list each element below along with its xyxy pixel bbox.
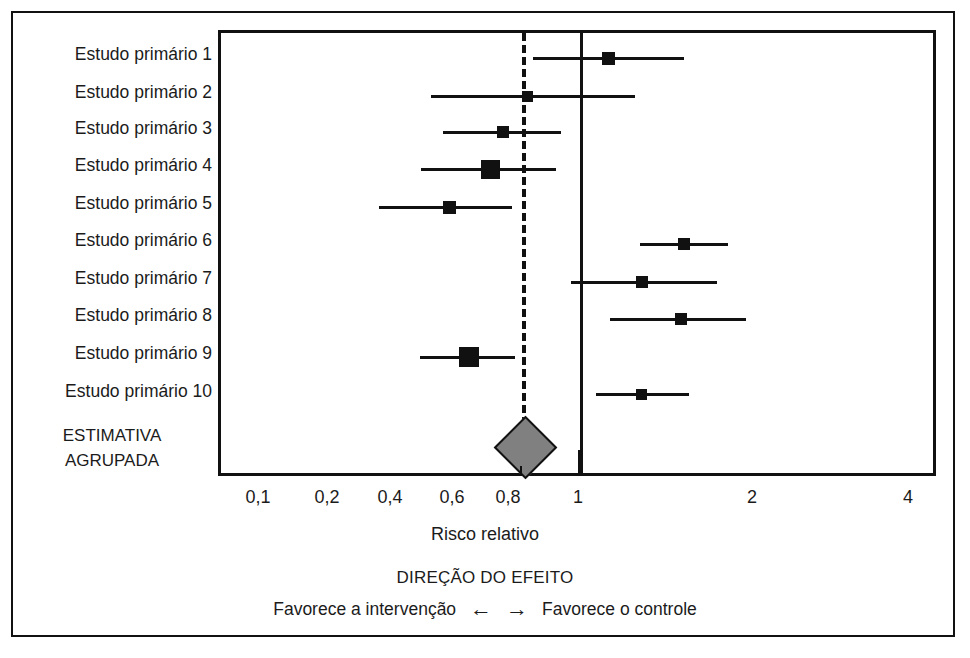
axis-tick-1 bbox=[578, 450, 581, 476]
marker-study-4 bbox=[481, 160, 500, 179]
axis-tick-0-8 bbox=[520, 466, 522, 476]
ci-line-study-2 bbox=[431, 95, 635, 98]
row-label-study-5: Estudo primário 5 bbox=[75, 195, 212, 213]
right-arrow-icon: → bbox=[506, 598, 528, 620]
marker-study-7 bbox=[636, 276, 648, 288]
marker-study-1 bbox=[602, 52, 615, 65]
null-effect-reference-line bbox=[580, 33, 583, 473]
row-label-study-7: Estudo primário 7 bbox=[75, 270, 212, 288]
marker-study-5 bbox=[443, 201, 456, 214]
marker-study-2 bbox=[522, 91, 533, 102]
marker-study-6 bbox=[678, 238, 690, 250]
row-label-study-6: Estudo primário 6 bbox=[75, 232, 212, 250]
tick-label-0-4: 0,4 bbox=[377, 488, 402, 506]
forest-plot-figure: Estudo primário 1 Estudo primário 2 Estu… bbox=[0, 0, 970, 658]
tick-label-0-6: 0,6 bbox=[439, 488, 464, 506]
effect-direction-title: DIREÇÃO DO EFEITO bbox=[0, 568, 970, 588]
marker-study-9 bbox=[459, 347, 479, 367]
plot-area bbox=[218, 30, 936, 476]
row-label-study-10: Estudo primário 10 bbox=[65, 383, 212, 401]
tick-label-0-8: 0,8 bbox=[495, 488, 520, 506]
x-axis-title: Risco relativo bbox=[0, 524, 970, 545]
marker-study-10 bbox=[636, 389, 647, 400]
marker-study-3 bbox=[497, 126, 509, 138]
tick-label-4: 4 bbox=[903, 488, 913, 506]
row-label-study-2: Estudo primário 2 bbox=[75, 84, 212, 102]
favors-intervention-label: Favorece a intervenção bbox=[273, 599, 456, 620]
pooled-estimate-diamond bbox=[494, 416, 558, 480]
tick-label-0-1: 0,1 bbox=[245, 488, 270, 506]
plot-inner bbox=[221, 33, 933, 473]
row-label-study-4: Estudo primário 4 bbox=[75, 157, 212, 175]
row-label-study-8: Estudo primário 8 bbox=[75, 307, 212, 325]
favors-control-label: Favorece o controle bbox=[542, 599, 697, 620]
row-label-study-1: Estudo primário 1 bbox=[75, 46, 212, 64]
tick-label-2: 2 bbox=[747, 488, 757, 506]
row-label-pooled-estimate-line2: AGRUPADA bbox=[12, 449, 212, 474]
tick-label-0-2: 0,2 bbox=[314, 488, 339, 506]
left-arrow-icon: ← bbox=[470, 598, 492, 620]
marker-study-8 bbox=[675, 313, 687, 325]
tick-label-1: 1 bbox=[573, 488, 583, 506]
row-label-study-3: Estudo primário 3 bbox=[75, 120, 212, 138]
effect-direction-row: Favorece a intervenção ← → Favorece o co… bbox=[0, 598, 970, 620]
row-label-study-9: Estudo primário 9 bbox=[75, 345, 212, 363]
row-label-pooled-estimate-line1: ESTIMATIVA bbox=[12, 424, 212, 449]
